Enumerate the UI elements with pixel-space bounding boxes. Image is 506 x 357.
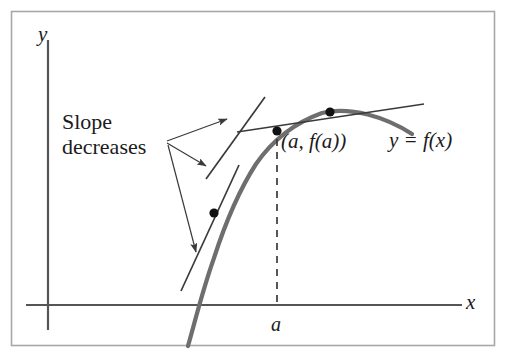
figure-border — [12, 12, 495, 346]
x-axis-label: x — [466, 292, 475, 313]
slope-annotation-line-1: Slope — [62, 110, 146, 135]
a-tick-label: a — [271, 314, 281, 334]
y-axis-label: y — [38, 24, 47, 45]
figure-canvas — [0, 0, 506, 357]
point-of-tangency-right — [325, 107, 334, 116]
tangent-line-figure: y x a (a, f(a)) y = f(x) Slope decreases — [0, 0, 506, 357]
point-of-tangency-left — [209, 208, 218, 217]
curve-equation-label: y = f(x) — [389, 130, 452, 151]
point-of-tangency-label: (a, f(a)) — [281, 131, 346, 152]
slope-annotation-line-2: decreases — [62, 135, 146, 160]
slope-annotation: Slope decreases — [62, 110, 146, 159]
